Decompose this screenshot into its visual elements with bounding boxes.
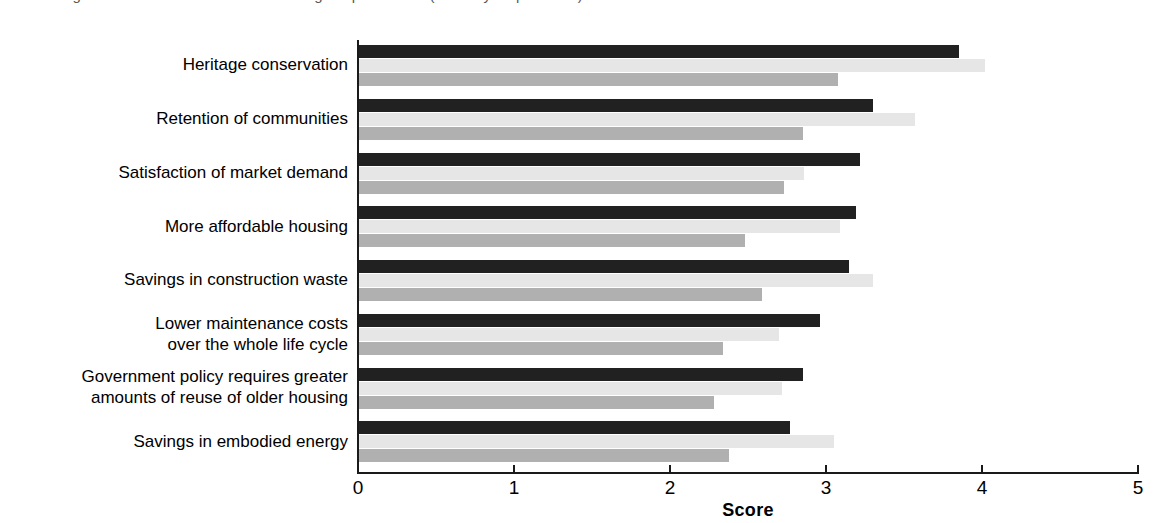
x-tick	[669, 465, 671, 474]
bar	[358, 59, 985, 72]
category-label-line: Lower maintenance costs	[8, 313, 348, 334]
x-tick-label: 4	[962, 477, 1002, 499]
bar-group	[358, 418, 1138, 472]
bar-group	[358, 203, 1138, 257]
bar	[358, 435, 834, 448]
figure-caption-cutoff: Figure 4. Benefits of residential buildi…	[0, 0, 1169, 12]
x-tick-label: 3	[806, 477, 846, 499]
bar	[358, 449, 729, 462]
plot-area	[358, 42, 1138, 472]
y-axis-line	[357, 40, 359, 474]
bar-group	[358, 96, 1138, 150]
bar	[358, 99, 873, 112]
bar	[358, 260, 849, 273]
bar	[358, 167, 804, 180]
bar	[358, 234, 745, 247]
bar	[358, 368, 803, 381]
category-label-line: Savings in embodied energy	[8, 431, 348, 452]
x-tick-label: 1	[494, 477, 534, 499]
bar-group	[358, 311, 1138, 365]
bar-group	[358, 150, 1138, 204]
x-axis-line	[357, 472, 1139, 474]
bar	[358, 342, 723, 355]
category-label: More affordable housing	[8, 216, 348, 237]
x-tick	[825, 465, 827, 474]
category-label-line: More affordable housing	[8, 216, 348, 237]
category-label: Savings in embodied energy	[8, 431, 348, 452]
bar	[358, 396, 714, 409]
category-label-line: Savings in construction waste	[8, 269, 348, 290]
bar-group	[358, 42, 1138, 96]
x-tick-label: 5	[1118, 477, 1158, 499]
bar-group	[358, 365, 1138, 419]
category-label: Lower maintenance costsover the whole li…	[8, 313, 348, 355]
bar	[358, 45, 959, 58]
x-tick	[1137, 465, 1139, 474]
bar	[358, 421, 790, 434]
category-label: Retention of communities	[8, 108, 348, 129]
bar	[358, 73, 838, 86]
bar	[358, 314, 820, 327]
x-axis-title-text: Score	[722, 500, 774, 521]
bar	[358, 288, 762, 301]
category-label-line: Satisfaction of market demand	[8, 162, 348, 183]
x-tick	[357, 465, 359, 474]
x-tick	[981, 465, 983, 474]
category-label-line: Heritage conservation	[8, 54, 348, 75]
category-label-line: over the whole life cycle	[8, 334, 348, 355]
bar-group	[358, 257, 1138, 311]
category-label-line: Retention of communities	[8, 108, 348, 129]
x-tick-label: 0	[338, 477, 378, 499]
bar	[358, 274, 873, 287]
bar	[358, 153, 860, 166]
bar	[358, 382, 782, 395]
category-label-line: Government policy requires greater	[8, 366, 348, 387]
category-label-line: amounts of reuse of older housing	[8, 387, 348, 408]
bar	[358, 328, 779, 341]
bar	[358, 113, 915, 126]
category-label: Satisfaction of market demand	[8, 162, 348, 183]
bar	[358, 127, 803, 140]
x-tick-label: 2	[650, 477, 690, 499]
figure-caption-text: Figure 4. Benefits of residential buildi…	[60, 0, 583, 3]
bar	[358, 220, 840, 233]
bar	[358, 206, 856, 219]
bar-chart: Figure 4. Benefits of residential buildi…	[0, 0, 1169, 523]
category-label: Savings in construction waste	[8, 269, 348, 290]
category-label: Government policy requires greateramount…	[8, 366, 348, 408]
x-tick	[513, 465, 515, 474]
category-label: Heritage conservation	[8, 54, 348, 75]
bar	[358, 181, 784, 194]
